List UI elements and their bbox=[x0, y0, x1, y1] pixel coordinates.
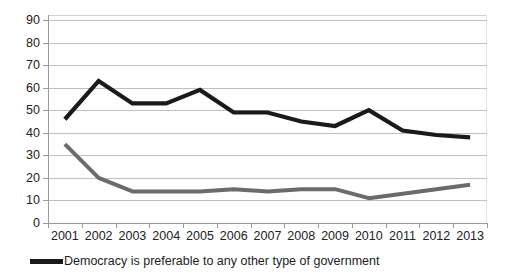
gridline-50 bbox=[48, 110, 487, 111]
x-tick-label-2006: 2006 bbox=[220, 230, 248, 243]
gridline-10 bbox=[48, 200, 487, 201]
x-tick-mark-9 bbox=[352, 223, 353, 228]
y-tick-mark-40 bbox=[43, 133, 49, 134]
gridline-90 bbox=[48, 20, 487, 21]
x-tick-mark-2 bbox=[116, 223, 117, 228]
x-tick-label-2001: 2001 bbox=[51, 230, 79, 243]
x-tick-mark-10 bbox=[386, 223, 387, 228]
legend: Democracy is preferable to any other typ… bbox=[30, 255, 379, 268]
x-tick-mark-8 bbox=[318, 223, 319, 228]
y-tick-label-40: 40 bbox=[10, 127, 40, 140]
gridline-30 bbox=[48, 155, 487, 156]
plot-area bbox=[48, 15, 487, 223]
plot-top-border bbox=[48, 15, 487, 16]
gridline-60 bbox=[48, 88, 487, 89]
x-tick-label-2002: 2002 bbox=[85, 230, 113, 243]
x-tick-label-2012: 2012 bbox=[422, 230, 450, 243]
plot-right-border bbox=[486, 15, 487, 223]
y-tick-label-60: 60 bbox=[10, 81, 40, 94]
x-tick-label-2010: 2010 bbox=[355, 230, 383, 243]
x-tick-mark-11 bbox=[419, 223, 420, 228]
x-tick-label-2007: 2007 bbox=[254, 230, 282, 243]
x-tick-mark-4 bbox=[183, 223, 184, 228]
x-tick-mark-13 bbox=[487, 223, 488, 228]
x-tick-label-2009: 2009 bbox=[321, 230, 349, 243]
x-tick-label-2003: 2003 bbox=[119, 230, 147, 243]
x-tick-mark-5 bbox=[217, 223, 218, 228]
x-tick-mark-1 bbox=[82, 223, 83, 228]
y-tick-label-80: 80 bbox=[10, 36, 40, 49]
legend-label-democracy: Democracy is preferable to any other typ… bbox=[64, 255, 379, 268]
chart-screenshot: 0102030405060708090 20012002200320042005… bbox=[0, 0, 514, 275]
gridline-70 bbox=[48, 65, 487, 66]
y-tick-mark-20 bbox=[43, 178, 49, 179]
x-tick-label-2004: 2004 bbox=[152, 230, 180, 243]
y-tick-mark-30 bbox=[43, 155, 49, 156]
y-axis-line bbox=[48, 15, 49, 224]
y-tick-mark-50 bbox=[43, 110, 49, 111]
x-tick-mark-7 bbox=[284, 223, 285, 228]
gridline-40 bbox=[48, 133, 487, 134]
y-tick-label-20: 20 bbox=[10, 172, 40, 185]
y-tick-mark-80 bbox=[43, 43, 49, 44]
x-tick-label-2008: 2008 bbox=[287, 230, 315, 243]
y-tick-label-10: 10 bbox=[10, 194, 40, 207]
x-tick-mark-12 bbox=[453, 223, 454, 228]
y-tick-label-90: 90 bbox=[10, 14, 40, 27]
x-axis-line bbox=[48, 223, 488, 224]
legend-line-swatch-democracy bbox=[30, 259, 63, 264]
y-tick-label-0: 0 bbox=[10, 217, 40, 230]
gridline-20 bbox=[48, 178, 487, 179]
y-tick-mark-10 bbox=[43, 200, 49, 201]
y-tick-mark-70 bbox=[43, 65, 49, 66]
x-tick-mark-3 bbox=[149, 223, 150, 228]
y-tick-mark-60 bbox=[43, 88, 49, 89]
x-tick-label-2013: 2013 bbox=[456, 230, 484, 243]
x-tick-mark-6 bbox=[251, 223, 252, 228]
x-tick-mark-0 bbox=[48, 223, 49, 228]
y-tick-label-30: 30 bbox=[10, 149, 40, 162]
y-tick-label-50: 50 bbox=[10, 104, 40, 117]
x-tick-label-2011: 2011 bbox=[389, 230, 416, 243]
y-tick-label-70: 70 bbox=[10, 59, 40, 72]
x-tick-label-2005: 2005 bbox=[186, 230, 214, 243]
y-tick-mark-90 bbox=[43, 20, 49, 21]
gridline-80 bbox=[48, 43, 487, 44]
